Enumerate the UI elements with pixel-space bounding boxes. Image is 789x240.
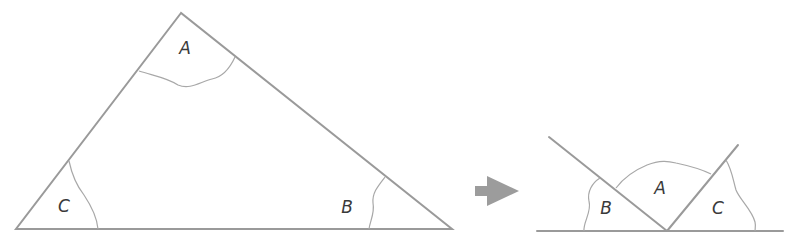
angle-c-edge [667, 145, 738, 231]
c-piece-tear-line [726, 160, 755, 231]
label-angle-a: A [179, 38, 191, 58]
diagram-canvas [0, 0, 789, 240]
angle-b-tear-line [369, 177, 385, 229]
label-angle-c: C [58, 196, 70, 216]
b-piece-tear-line [584, 178, 600, 231]
angle-c-tear-line [69, 161, 98, 229]
rearranged-label-b: B [600, 198, 612, 218]
label-angle-b: B [341, 197, 353, 217]
rearranged-label-c: C [712, 198, 724, 218]
right-arrow-icon [475, 176, 519, 206]
angle-a-tear-line [139, 57, 235, 87]
original-triangle [16, 13, 452, 229]
triangle-outline [16, 13, 452, 229]
rearranged-label-a: A [654, 178, 666, 198]
